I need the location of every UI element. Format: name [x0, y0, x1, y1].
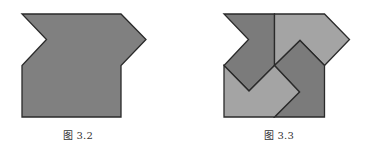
figure-3-2-shape	[22, 14, 146, 117]
diagram-canvas	[0, 0, 365, 149]
figure-3-3-dissection	[224, 14, 350, 117]
figure-3-2-whole-shape	[22, 14, 146, 117]
figure-3-3-caption: 图 3.3	[249, 128, 309, 144]
figure-3-2-caption: 图 3.2	[48, 128, 108, 144]
